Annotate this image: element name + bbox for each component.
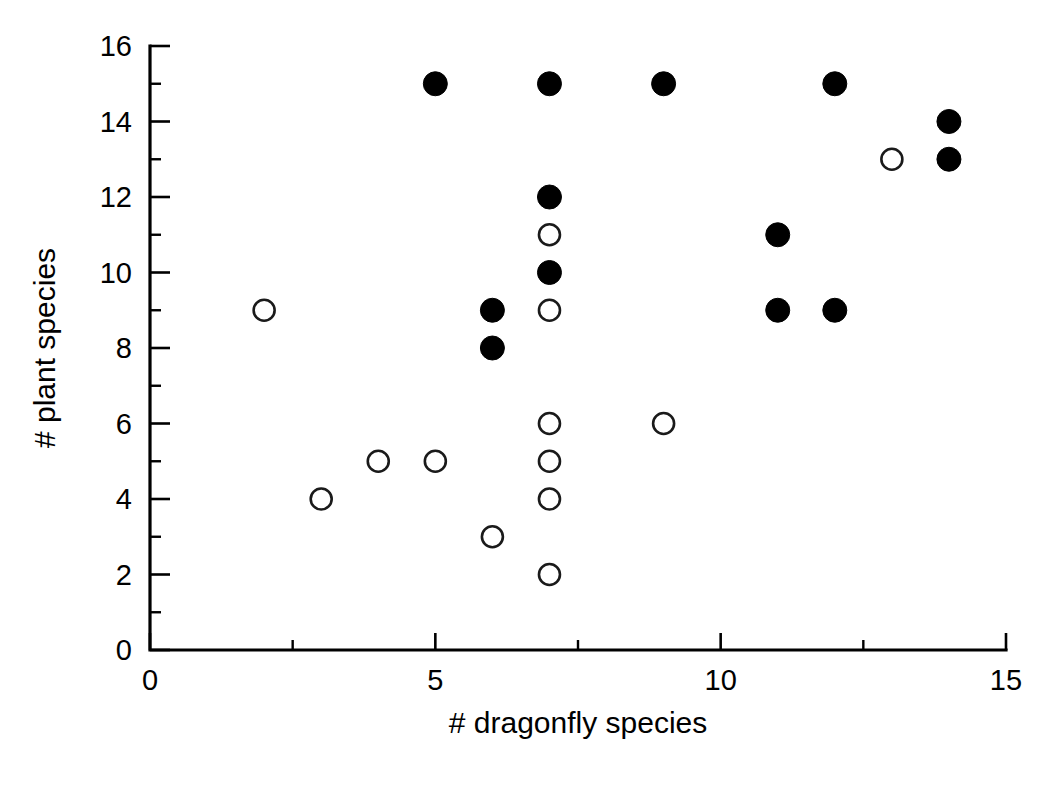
axes xyxy=(150,46,1006,650)
data-point-filled xyxy=(823,72,847,96)
data-point-open xyxy=(482,526,503,547)
x-axis-title: # dragonfly species xyxy=(449,706,708,739)
data-point-filled xyxy=(423,72,447,96)
data-point-open xyxy=(539,224,560,245)
y-tick-label: 6 xyxy=(116,408,132,440)
data-point-filled xyxy=(937,110,961,134)
data-point-filled xyxy=(652,72,676,96)
data-point-filled xyxy=(480,336,504,360)
scatter-plot: 0246810121416051015 # dragonfly species … xyxy=(0,0,1064,785)
tick-labels: 0246810121416051015 xyxy=(100,30,1022,696)
data-point-filled xyxy=(537,185,561,209)
data-point-filled xyxy=(937,147,961,171)
data-point-filled xyxy=(537,261,561,285)
y-tick-label: 2 xyxy=(116,559,132,591)
data-point-open xyxy=(539,564,560,585)
y-tick-label: 12 xyxy=(100,181,132,213)
data-point-open xyxy=(425,451,446,472)
data-point-filled xyxy=(766,223,790,247)
axis-spine xyxy=(150,46,1006,650)
data-point-filled xyxy=(537,72,561,96)
tick-marks xyxy=(150,46,1006,650)
y-tick-label: 10 xyxy=(100,257,132,289)
x-tick-label: 5 xyxy=(427,664,443,696)
x-tick-label: 0 xyxy=(142,664,158,696)
y-tick-label: 16 xyxy=(100,30,132,62)
y-axis-title: # plant species xyxy=(28,248,61,448)
data-point-open xyxy=(539,413,560,434)
figure-canvas: 0246810121416051015 # dragonfly species … xyxy=(0,0,1064,785)
data-point-open xyxy=(539,451,560,472)
data-point-filled xyxy=(766,298,790,322)
data-point-open xyxy=(539,300,560,321)
x-tick-label: 15 xyxy=(990,664,1022,696)
data-point-open xyxy=(311,489,332,510)
data-point-filled xyxy=(480,298,504,322)
y-tick-label: 8 xyxy=(116,332,132,364)
data-point-open xyxy=(254,300,275,321)
x-tick-label: 10 xyxy=(705,664,737,696)
y-tick-label: 4 xyxy=(116,483,132,515)
data-point-open xyxy=(539,489,560,510)
data-markers xyxy=(254,72,961,585)
data-point-open xyxy=(368,451,389,472)
data-point-open xyxy=(653,413,674,434)
data-point-open xyxy=(881,149,902,170)
data-point-filled xyxy=(823,298,847,322)
y-tick-label: 0 xyxy=(116,634,132,666)
y-tick-label: 14 xyxy=(100,106,132,138)
